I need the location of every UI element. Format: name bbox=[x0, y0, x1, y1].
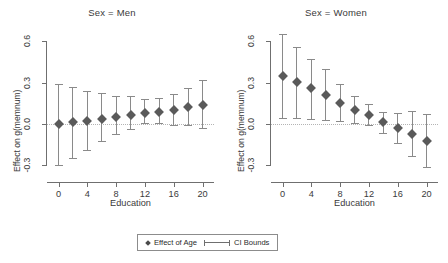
ci-cap-upper bbox=[155, 98, 163, 99]
error-bar-icon bbox=[204, 239, 230, 247]
y-axis-tick--0.3 bbox=[42, 165, 47, 166]
data-point-marker bbox=[183, 102, 193, 112]
ci-cap-lower bbox=[336, 121, 344, 122]
y-axis-tick-label-0.3: 0.3 bbox=[245, 71, 257, 95]
x-axis-tick-12 bbox=[145, 182, 146, 187]
ci-cap-upper bbox=[336, 84, 344, 85]
data-point-marker bbox=[97, 114, 107, 124]
data-point-marker bbox=[68, 117, 78, 127]
ci-cap-lower bbox=[394, 143, 402, 144]
data-point-marker bbox=[335, 98, 345, 108]
legend-label-ci-bounds: CI Bounds bbox=[234, 238, 269, 247]
data-point-marker bbox=[378, 117, 388, 127]
ci-cap-lower bbox=[55, 165, 63, 166]
ci-cap-upper bbox=[394, 113, 402, 114]
ci-cap-upper bbox=[351, 96, 359, 97]
y-axis-tick-label--0.3: -0.3 bbox=[245, 153, 257, 177]
chart-panel-men: Sex = Men Effect on g(memnum) -0.30.00.3… bbox=[0, 0, 224, 225]
ci-cap-lower bbox=[141, 123, 149, 124]
ci-cap-upper bbox=[184, 88, 192, 89]
data-point-marker bbox=[321, 90, 331, 100]
data-point-marker bbox=[111, 112, 121, 122]
y-axis-tick-0.6 bbox=[42, 41, 47, 42]
data-point-marker bbox=[140, 108, 150, 118]
y-axis-tick-0.3 bbox=[42, 83, 47, 84]
ci-cap-lower bbox=[351, 123, 359, 124]
ci-cap-lower bbox=[423, 167, 431, 168]
y-axis-tick-label-0.6: 0.6 bbox=[245, 29, 257, 53]
panel-title-men: Sex = Men bbox=[0, 7, 224, 18]
ci-cap-upper bbox=[98, 93, 106, 94]
ci-cap-upper bbox=[307, 59, 315, 60]
ci-cap-lower bbox=[170, 125, 178, 126]
x-axis-tick-4 bbox=[87, 182, 88, 187]
y-axis-line bbox=[46, 41, 47, 165]
data-point-marker bbox=[306, 83, 316, 93]
ci-cap-lower bbox=[155, 123, 163, 124]
x-axis-tick-16 bbox=[174, 182, 175, 187]
ci-cap-lower bbox=[199, 128, 207, 129]
x-axis-tick-20 bbox=[203, 182, 204, 187]
x-axis-tick-20 bbox=[427, 182, 428, 187]
x-axis-tick-0 bbox=[283, 182, 284, 187]
y-axis-tick-label-0.0: 0.0 bbox=[245, 112, 257, 136]
ci-cap-lower bbox=[83, 150, 91, 151]
y-axis-tick-label-0.3: 0.3 bbox=[21, 71, 33, 95]
y-axis-line bbox=[270, 41, 271, 165]
plot-area-men: -0.30.00.30.6048121620 bbox=[47, 30, 214, 182]
data-point-marker bbox=[364, 110, 374, 120]
ci-cap-upper bbox=[127, 96, 135, 97]
ci-cap-lower bbox=[365, 125, 373, 126]
ci-cap-lower bbox=[279, 118, 287, 119]
ci-cap-lower bbox=[322, 120, 330, 121]
y-axis-tick-0.0 bbox=[42, 124, 47, 125]
ci-cap-lower bbox=[379, 133, 387, 134]
ci-cap-lower bbox=[408, 156, 416, 157]
y-axis-tick-label--0.3: -0.3 bbox=[21, 153, 33, 177]
data-point-marker bbox=[126, 110, 136, 120]
ci-cap-upper bbox=[199, 80, 207, 81]
data-point-marker bbox=[198, 100, 208, 110]
ci-cap-lower bbox=[112, 134, 120, 135]
ci-cap-lower bbox=[184, 125, 192, 126]
ci-cap-lower bbox=[69, 158, 77, 159]
data-point-marker bbox=[292, 77, 302, 87]
legend-item-ci-bounds: CI Bounds bbox=[204, 238, 269, 247]
ci-cap-upper bbox=[322, 69, 330, 70]
y-axis-tick-0.6 bbox=[266, 41, 271, 42]
x-axis-tick-4 bbox=[311, 182, 312, 187]
data-point-marker bbox=[422, 136, 432, 146]
ci-cap-lower bbox=[98, 141, 106, 142]
ci-cap-upper bbox=[112, 96, 120, 97]
ci-cap-upper bbox=[170, 94, 178, 95]
data-point-marker bbox=[154, 107, 164, 117]
y-axis-tick-0.3 bbox=[266, 83, 271, 84]
panel-title-women: Sex = Women bbox=[224, 7, 448, 18]
plot-area-women: -0.30.00.30.6048121620 bbox=[271, 30, 438, 182]
x-axis-tick-0 bbox=[59, 182, 60, 187]
y-axis-tick-0.0 bbox=[266, 124, 271, 125]
x-axis-tick-12 bbox=[369, 182, 370, 187]
ci-cap-upper bbox=[141, 99, 149, 100]
x-axis-tick-8 bbox=[340, 182, 341, 187]
data-point-marker bbox=[350, 105, 360, 115]
x-axis-tick-8 bbox=[116, 182, 117, 187]
ci-cap-lower bbox=[293, 118, 301, 119]
ci-cap-upper bbox=[379, 112, 387, 113]
ci-cap-upper bbox=[55, 84, 63, 85]
ci-cap-upper bbox=[408, 111, 416, 112]
ci-cap-upper bbox=[423, 114, 431, 115]
x-axis-label-men: Education bbox=[47, 198, 214, 208]
ci-cap-upper bbox=[365, 104, 373, 105]
ci-cap-upper bbox=[69, 87, 77, 88]
legend-label-effect-of-age: Effect of Age bbox=[154, 238, 197, 247]
ci-cap-upper bbox=[279, 34, 287, 35]
ci-cap-upper bbox=[293, 47, 301, 48]
ci-cap-lower bbox=[307, 119, 315, 120]
legend-item-effect-of-age: Effect of Age bbox=[146, 238, 197, 247]
ci-cap-upper bbox=[83, 91, 91, 92]
data-point-marker bbox=[407, 129, 417, 139]
data-point-marker bbox=[54, 119, 64, 129]
data-point-marker bbox=[169, 105, 179, 115]
diamond-marker-icon bbox=[145, 240, 151, 246]
